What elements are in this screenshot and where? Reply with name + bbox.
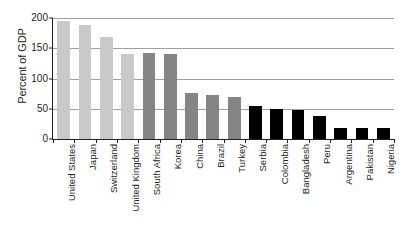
x-axis-category-labels: United StatesJapanSwitzerlandUnited King… <box>52 144 393 232</box>
x-axis-tick-mark <box>96 139 97 143</box>
x-axis-category-label: Nigeria <box>386 144 396 174</box>
bar-slot <box>202 18 223 139</box>
x-axis-tick-mark <box>138 139 139 143</box>
y-axis-tick-label: 50 <box>37 104 48 114</box>
x-axis-tick-mark <box>117 139 118 143</box>
bar <box>377 128 390 139</box>
bar-series <box>53 18 394 139</box>
x-axis-tick-mark <box>351 139 352 143</box>
x-axis-tick-mark <box>330 139 331 143</box>
bar <box>334 128 347 139</box>
x-axis-label-slot: Bangladesh <box>286 144 307 232</box>
x-axis-tick-mark <box>160 139 161 143</box>
x-axis-label-slot: Turkey <box>223 144 244 232</box>
bar-slot <box>181 18 202 139</box>
x-axis-label-slot: Korea <box>159 144 180 232</box>
x-axis-tick-mark <box>53 139 54 143</box>
x-axis-tick-mark <box>202 139 203 143</box>
bar <box>270 109 283 139</box>
plot-area: 050100150200 <box>52 18 394 140</box>
bar-slot <box>351 18 372 139</box>
bar-slot <box>309 18 330 139</box>
bar-chart: Percent of GDP 050100150200 United State… <box>0 0 399 235</box>
x-axis-tick-mark <box>245 139 246 143</box>
x-axis-label-slot: Japan <box>73 144 94 232</box>
bar <box>100 37 113 139</box>
bar-slot <box>53 18 74 139</box>
x-axis-tick-mark <box>74 139 75 143</box>
bar <box>79 25 92 139</box>
bar <box>164 54 177 139</box>
bar-slot <box>373 18 394 139</box>
x-axis-label-slot: Nigeria <box>372 144 393 232</box>
x-axis-tick-mark <box>181 139 182 143</box>
bar <box>313 116 326 139</box>
bar <box>249 106 262 139</box>
x-axis-label-slot: Colombia <box>265 144 286 232</box>
y-axis-tick-label: 200 <box>31 13 48 23</box>
bar-slot <box>330 18 351 139</box>
bar-slot <box>224 18 245 139</box>
y-axis-title: Percent of GDP <box>14 1 30 131</box>
bar-slot <box>160 18 181 139</box>
bar <box>356 128 369 139</box>
bar <box>228 97 241 139</box>
bar-slot <box>74 18 95 139</box>
bar <box>292 110 305 139</box>
x-axis-ticks <box>53 139 394 143</box>
y-axis-tick-label: 150 <box>31 43 48 53</box>
x-axis-tick-mark <box>373 139 374 143</box>
bar-slot <box>117 18 138 139</box>
bar-slot <box>287 18 308 139</box>
x-axis-label-slot: Serbia <box>244 144 265 232</box>
bar-slot <box>266 18 287 139</box>
bar <box>121 54 134 139</box>
y-axis-tick-label: 0 <box>42 134 48 144</box>
x-axis-label-slot: Switzerland <box>95 144 116 232</box>
x-axis-label-slot: Pakistan <box>350 144 371 232</box>
bar <box>57 21 70 139</box>
bar <box>185 93 198 139</box>
x-axis-tick-mark <box>309 139 310 143</box>
bar <box>206 95 219 139</box>
y-axis-tick-label: 100 <box>31 74 48 84</box>
x-axis-label-slot: Argentina <box>329 144 350 232</box>
x-axis-tick-mark <box>224 139 225 143</box>
bar <box>143 53 156 139</box>
bar-slot <box>245 18 266 139</box>
bar-slot <box>96 18 117 139</box>
x-axis-label-slot: Brazil <box>201 144 222 232</box>
x-axis-label-slot: United States <box>52 144 73 232</box>
x-axis-label-slot: China <box>180 144 201 232</box>
x-axis-tick-mark <box>394 139 395 143</box>
x-axis-label-slot: United Kingdom <box>116 144 137 232</box>
x-axis-label-slot: Peru <box>308 144 329 232</box>
bar-slot <box>138 18 159 139</box>
x-axis-label-slot: South Africa <box>137 144 158 232</box>
x-axis-tick-mark <box>266 139 267 143</box>
x-axis-tick-mark <box>287 139 288 143</box>
